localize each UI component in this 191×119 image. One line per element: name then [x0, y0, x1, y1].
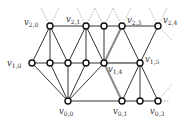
edge-v2_1-v1_4	[86, 26, 104, 63]
edge-v2_0-m68	[50, 26, 68, 63]
edge-v1_4-v0_0	[68, 63, 104, 101]
node-v2_1	[83, 23, 89, 29]
label-v1_0: v1,0	[7, 58, 22, 69]
edge-m50-v0_0	[50, 63, 68, 101]
label-v2_1: v2,1	[66, 14, 80, 25]
label-v0_3: v0,3	[150, 106, 165, 117]
label-v1_4: v1,4	[108, 64, 123, 75]
highlight-edge-v1_4-v2_3	[104, 26, 122, 63]
node-v1_0	[29, 60, 35, 66]
edge-v2_3-v1_5	[122, 26, 140, 63]
node-v0_3	[155, 98, 161, 104]
node-b140	[137, 98, 143, 104]
node-v1_4	[101, 60, 107, 66]
edge-v2_1-m68	[68, 26, 86, 63]
node-v2_4	[155, 23, 161, 29]
node-v2_0	[47, 23, 53, 29]
label-v2_3: v2,3	[127, 15, 142, 26]
label-v0_0: v0,0	[59, 106, 74, 117]
edge-m86-v0_0	[68, 63, 86, 101]
edge-v2_0-v1_0	[32, 26, 50, 63]
graph-diagram: v2,0v2,1v2,3v2,4v1,0v1,4v1,5v0,0v0,1v0,3	[0, 0, 191, 119]
dotted-stub-edges	[41, 8, 172, 101]
node-v2_3	[119, 23, 125, 29]
label-v2_4: v2,4	[163, 15, 178, 26]
label-v0_1: v0,1	[113, 106, 127, 117]
node-m86	[83, 60, 89, 66]
edge-v1_5-v0_3	[140, 63, 158, 101]
node-m50	[47, 60, 53, 66]
node-v1_5	[137, 60, 143, 66]
node-t104	[101, 23, 107, 29]
node-v0_0	[65, 98, 71, 104]
edge-v1_0-v0_0	[32, 63, 68, 101]
edge-v1_5-v0_1	[122, 63, 140, 101]
label-v1_5: v1,5	[145, 54, 160, 65]
label-v2_0: v2,0	[24, 17, 39, 28]
node-m68	[65, 60, 71, 66]
node-v0_1	[119, 98, 125, 104]
